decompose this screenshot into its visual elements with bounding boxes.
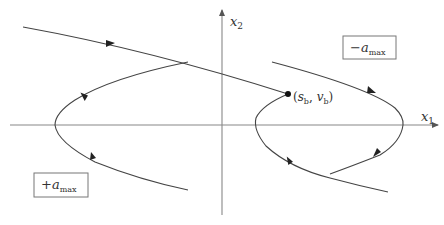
region-box-minus-amax: −amax <box>343 36 396 59</box>
right-trajectory <box>255 62 403 192</box>
right-inner-parabola <box>255 94 388 192</box>
switch-point-label: (sb, vb) <box>293 90 333 106</box>
arrow-icon <box>367 86 376 93</box>
arrow-icon <box>90 152 96 160</box>
region-box-plus-amax: +amax <box>34 173 88 197</box>
x2-axis-label: x2 <box>230 14 243 31</box>
phase-plane-diagram: x2 x1 (sb, vb) −amax +amax <box>0 0 444 225</box>
left-parabola <box>55 62 188 190</box>
x1-axis-label: x1 <box>421 109 434 126</box>
right-outer-parabola <box>272 62 403 174</box>
incoming-trajectory-line <box>23 27 288 94</box>
left-trajectory <box>23 27 288 190</box>
switch-point-marker <box>285 91 291 97</box>
